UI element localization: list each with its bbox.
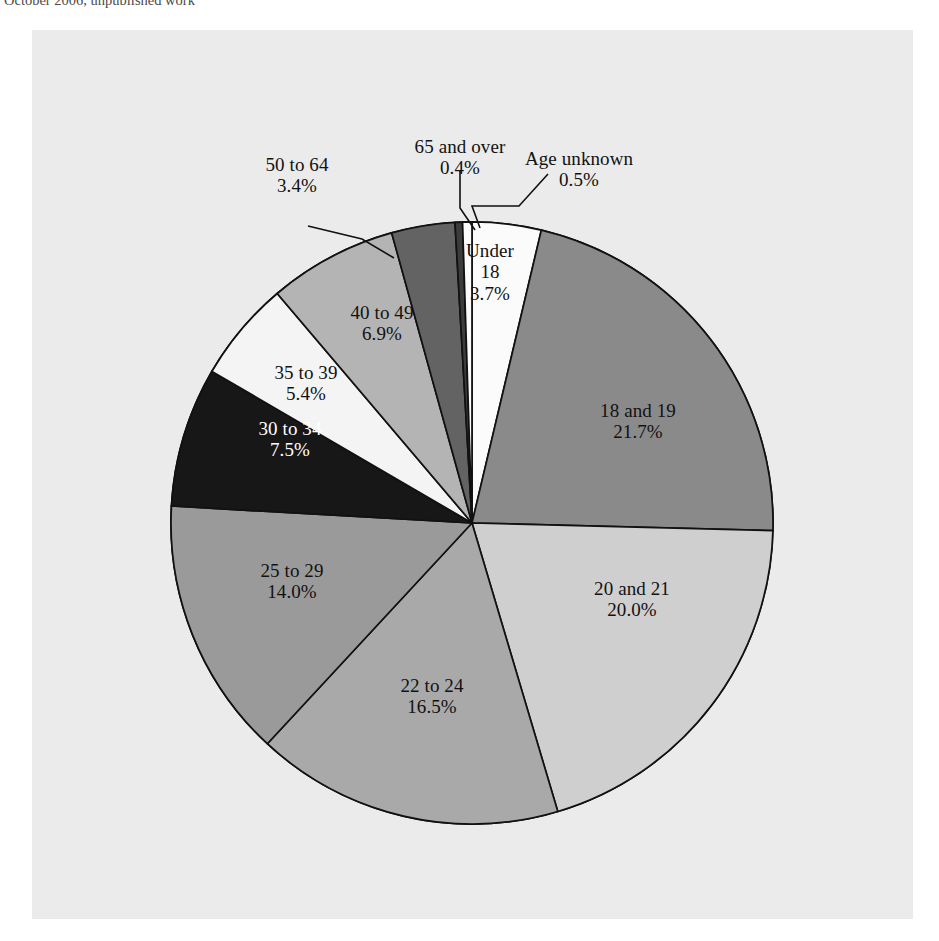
pie-chart — [32, 30, 913, 919]
top-caption-strip: October 2006, unpublished work — [0, 0, 939, 9]
leader-line-65-and-over — [460, 170, 475, 230]
leader-line-age-unknown — [472, 174, 548, 228]
caption-text: October 2006, unpublished work — [0, 0, 939, 9]
figure-panel: 65 and over 0.4% Age unknown 0.5% 50 to … — [32, 30, 913, 919]
pie-slice-group — [171, 222, 773, 824]
